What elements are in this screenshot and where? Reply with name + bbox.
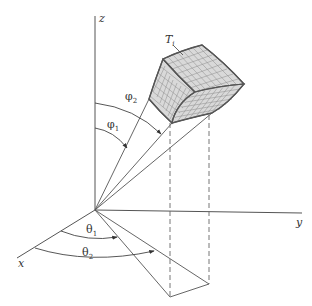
theta2-arc bbox=[35, 248, 154, 257]
x-axis-label: x bbox=[18, 257, 25, 270]
z-axis-label: z bbox=[98, 12, 105, 25]
region-ti-block bbox=[149, 45, 244, 123]
y-axis bbox=[95, 210, 302, 213]
y-axis-label: y bbox=[295, 216, 303, 229]
phi2-arc bbox=[95, 103, 161, 134]
theta2-ray bbox=[95, 210, 209, 284]
phi2-label: φ2 bbox=[125, 90, 137, 105]
spherical-wedge-diagram: z y x Ti bbox=[0, 0, 312, 306]
theta2-label: θ2 bbox=[82, 246, 93, 261]
phi2-ray bbox=[95, 123, 172, 210]
phi1-label: φ1 bbox=[107, 118, 119, 133]
base-edge bbox=[170, 284, 209, 297]
phi1-arc bbox=[95, 128, 127, 148]
theta1-label: θ1 bbox=[86, 223, 97, 238]
phi1-ray bbox=[95, 99, 149, 210]
theta1-ray bbox=[95, 210, 170, 297]
